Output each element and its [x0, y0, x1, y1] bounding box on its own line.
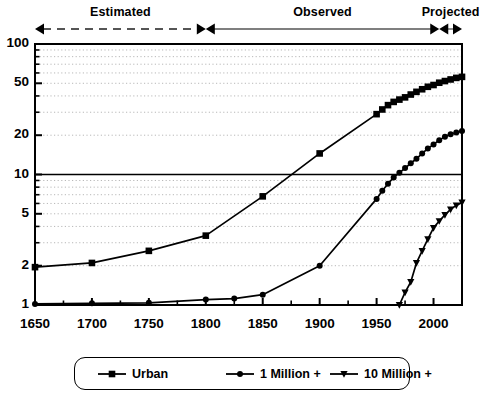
data-point-marker — [259, 193, 266, 200]
chart-plot-area: 125102050100 165017001750180018501900195… — [0, 0, 483, 340]
data-point-marker — [89, 300, 95, 306]
data-point-marker — [402, 165, 408, 171]
legend-label: Urban — [132, 367, 168, 381]
y-axis-tick-label: 100 — [0, 35, 29, 50]
data-point-marker — [431, 141, 437, 147]
data-point-marker — [425, 83, 432, 90]
data-point-marker — [425, 146, 431, 152]
y-axis-tick-label: 2 — [0, 257, 29, 272]
data-point-marker — [237, 371, 243, 377]
data-point-marker — [436, 137, 442, 143]
y-axis-tick-label: 20 — [0, 126, 29, 141]
data-point-marker — [260, 292, 266, 298]
data-point-marker — [413, 156, 419, 162]
data-point-marker — [424, 236, 431, 243]
y-axis-tick-label: 5 — [0, 205, 29, 220]
data-point-marker — [459, 74, 466, 81]
x-axis-tick-label: 1650 — [5, 316, 65, 331]
data-point-marker — [442, 78, 449, 85]
data-point-marker — [203, 297, 209, 303]
gridlines — [36, 44, 461, 266]
data-point-marker — [316, 150, 323, 157]
data-point-marker — [391, 174, 397, 180]
data-point-marker — [146, 248, 153, 255]
data-point-marker — [379, 188, 385, 194]
data-point-marker — [459, 128, 465, 134]
x-axis-tick-label: 1950 — [347, 316, 407, 331]
x-axis-tick-label: 1850 — [233, 316, 293, 331]
data-point-marker — [413, 260, 420, 267]
x-axis-tick-label: 1700 — [62, 316, 122, 331]
data-point-marker — [402, 94, 409, 101]
series-line — [399, 203, 462, 305]
chart-page: Estimated Observed Projected 12510205010… — [0, 0, 483, 405]
data-point-marker — [419, 86, 426, 93]
legend-item-urban[interactable]: Urban — [97, 367, 168, 381]
data-point-marker — [385, 102, 392, 109]
data-point-marker — [413, 89, 420, 96]
data-point-marker — [419, 248, 426, 255]
x-axis-tick-label: 2000 — [404, 316, 464, 331]
data-point-marker — [407, 91, 414, 98]
chart-legend: Urban1 Million +10 Million + — [74, 357, 410, 390]
series-1-million — [32, 128, 465, 307]
series-line — [35, 131, 462, 304]
legend-item-1-million[interactable]: 1 Million + — [225, 367, 321, 381]
x-axis-tick-label: 1750 — [119, 316, 179, 331]
data-point-marker — [109, 370, 116, 377]
data-point-marker — [453, 75, 460, 82]
data-point-marker — [32, 264, 39, 271]
legend-marker-circle-icon — [225, 367, 255, 381]
data-point-marker — [373, 111, 380, 118]
data-point-marker — [442, 134, 448, 140]
data-point-marker — [436, 79, 443, 86]
data-point-marker — [430, 82, 437, 89]
data-point-marker — [231, 296, 237, 302]
data-point-marker — [408, 160, 414, 166]
data-point-marker — [396, 96, 403, 103]
data-point-marker — [89, 260, 96, 267]
data-point-marker — [448, 131, 454, 137]
legend-label: 1 Million + — [260, 367, 321, 381]
data-point-marker — [396, 170, 402, 176]
data-point-marker — [407, 279, 414, 286]
x-axis-tick-label: 1800 — [176, 316, 236, 331]
data-point-marker — [203, 232, 210, 239]
data-point-marker — [390, 99, 397, 106]
data-point-marker — [453, 129, 459, 135]
data-point-marker — [385, 181, 391, 187]
y-axis-tick-label: 1 — [0, 296, 29, 311]
y-axis-tick-label: 50 — [0, 74, 29, 89]
data-point-marker — [401, 289, 408, 296]
chart-canvas — [0, 0, 483, 340]
data-series — [32, 74, 466, 309]
y-axis-tick-label: 10 — [0, 166, 29, 181]
legend-marker-triangle-down-icon — [329, 367, 359, 381]
legend-marker-square-icon — [97, 367, 127, 381]
series-10-million — [396, 200, 466, 309]
x-axis-tick-label: 1900 — [290, 316, 350, 331]
data-point-marker — [379, 106, 386, 113]
data-point-marker — [374, 196, 380, 202]
legend-label: 10 Million + — [364, 367, 432, 381]
data-point-marker — [317, 263, 323, 269]
data-point-marker — [419, 150, 425, 156]
data-point-marker — [447, 76, 454, 83]
legend-item-10-million[interactable]: 10 Million + — [329, 367, 432, 381]
data-point-marker — [32, 301, 38, 307]
data-point-marker — [146, 300, 152, 306]
data-point-marker — [430, 225, 437, 232]
